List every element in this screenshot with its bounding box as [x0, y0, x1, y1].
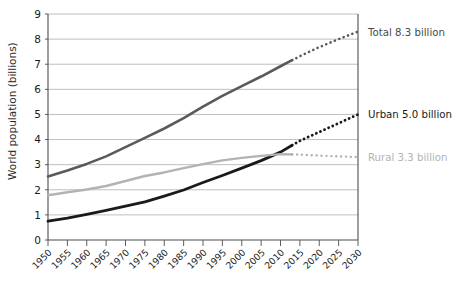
series-label-total: Total 8.3 billion: [367, 27, 445, 38]
series-label-rural: Rural 3.3 billion: [368, 152, 448, 163]
y-tick-label-6: 6: [34, 83, 41, 95]
x-tick-label-2020: 2020: [301, 247, 325, 271]
x-tick-marks-group: [48, 240, 358, 246]
x-tick-label-1965: 1965: [88, 247, 112, 271]
y-tick-label-4: 4: [34, 133, 41, 145]
x-tick-label-2010: 2010: [262, 247, 286, 271]
series-labels-group: Total 8.3 billion Urban 5.0 billion Rura…: [367, 27, 452, 164]
x-tick-label-1955: 1955: [49, 247, 73, 271]
y-tick-label-8: 8: [34, 33, 41, 45]
y-tick-label-0: 0: [34, 234, 41, 246]
axis-frame: [48, 14, 358, 240]
y-tick-label-3: 3: [34, 158, 41, 170]
y-tick-label-2: 2: [34, 184, 41, 196]
series-line-total-forecast: [292, 32, 358, 61]
x-tick-label-1980: 1980: [146, 247, 170, 271]
x-tick-label-2005: 2005: [243, 247, 267, 271]
x-tick-label-1970: 1970: [107, 247, 131, 271]
y-axis-title-group: World population (billions): [6, 42, 18, 180]
x-tick-label-1975: 1975: [126, 247, 150, 271]
x-tick-label-2025: 2025: [320, 247, 344, 271]
gridlines-group: [48, 14, 358, 215]
series-layer: [48, 32, 358, 222]
y-tick-label-7: 7: [34, 58, 41, 70]
x-tick-label-1960: 1960: [68, 247, 92, 271]
x-tick-labels-group: 1950195519601965197019751980198519901995…: [30, 247, 364, 271]
x-tick-label-2000: 2000: [223, 247, 247, 271]
series-line-rural-forecast: [292, 154, 358, 157]
series-label-urban: Urban 5.0 billion: [368, 109, 452, 120]
y-tick-label-5: 5: [34, 108, 41, 120]
y-tick-label-9: 9: [34, 8, 41, 20]
y-tick-labels-group: 0123456789: [34, 8, 48, 246]
x-tick-label-1995: 1995: [204, 247, 228, 271]
population-line-chart: World population (billions) 0123456789 1…: [0, 0, 457, 284]
series-line-urban-forecast: [292, 114, 358, 145]
series-line-rural-historical: [48, 154, 292, 195]
y-axis-title: World population (billions): [6, 42, 18, 180]
x-tick-label-1950: 1950: [30, 247, 54, 271]
series-line-total-historical: [48, 60, 292, 176]
y-tick-label-1: 1: [34, 209, 41, 221]
x-tick-label-2030: 2030: [340, 247, 364, 271]
chart-container: World population (billions) 0123456789 1…: [0, 0, 457, 284]
x-tick-label-2015: 2015: [281, 247, 305, 271]
x-tick-label-1990: 1990: [185, 247, 209, 271]
x-tick-label-1985: 1985: [165, 247, 189, 271]
